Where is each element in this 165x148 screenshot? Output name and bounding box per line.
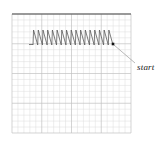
start-point-marker [112, 43, 115, 46]
figure-background [0, 0, 165, 148]
figure-canvas [0, 0, 165, 148]
